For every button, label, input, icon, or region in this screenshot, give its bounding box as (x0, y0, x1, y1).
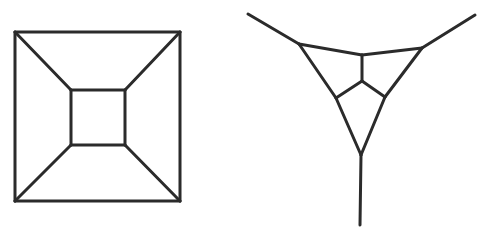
diagram-canvas (0, 0, 479, 242)
edge-line (299, 44, 362, 55)
edge-line (385, 48, 422, 97)
edge-line (15, 32, 71, 90)
edge-line (360, 155, 361, 225)
edge-line (248, 14, 299, 44)
edge-line (361, 97, 385, 155)
cube-graph-square (15, 32, 180, 201)
edge-line (336, 81, 362, 98)
edge-line (125, 145, 180, 201)
edge-line (362, 81, 385, 97)
edge-line (15, 145, 71, 201)
edge-line (336, 98, 361, 155)
edge-line (362, 48, 422, 55)
edge-line (125, 32, 180, 90)
edge-line (422, 15, 475, 48)
triangle-graph-with-y (248, 14, 475, 225)
edge-line (299, 44, 336, 98)
